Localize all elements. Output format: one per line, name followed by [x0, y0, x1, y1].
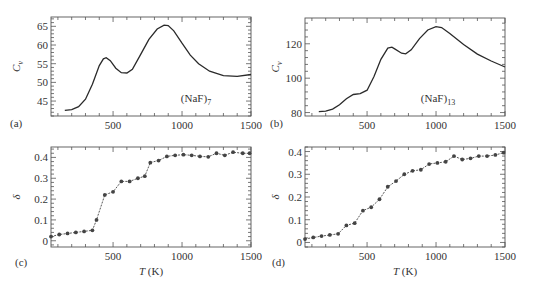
data-point	[128, 179, 132, 183]
chart-panel-a: 500100015004550556065Cv(NaF)7(a)	[10, 17, 263, 131]
data-point	[215, 151, 219, 155]
x-tick-label: 500	[105, 119, 122, 131]
x-axis-label: T (K)	[393, 265, 417, 278]
data-point	[90, 228, 94, 232]
data-point	[95, 218, 99, 222]
data-point	[143, 174, 147, 178]
data-point	[386, 185, 390, 189]
data-point	[173, 153, 177, 157]
data-point	[311, 236, 315, 240]
y-tick-label: 0.2	[34, 193, 48, 205]
y-axis-label: δ	[10, 194, 22, 200]
data-point	[49, 235, 53, 239]
data-point	[444, 160, 448, 164]
y-tick-label: 120	[286, 38, 303, 50]
x-tick-label: 1000	[425, 119, 448, 131]
data-point	[157, 159, 161, 163]
plot-frame	[51, 17, 251, 116]
x-tick-label: 1500	[494, 250, 517, 262]
delta-line	[305, 153, 504, 239]
y-axis-label: Cv	[10, 61, 25, 72]
data-point	[427, 162, 431, 166]
delta-line	[51, 152, 250, 236]
y-axis-label: δ	[269, 194, 281, 200]
y-tick-label: 60	[37, 39, 49, 51]
cluster-annotation: (NaF)7	[181, 92, 211, 107]
data-point	[411, 169, 415, 173]
x-tick-label: 1500	[494, 119, 517, 131]
y-tick-label: 0	[43, 235, 49, 247]
data-point	[198, 154, 202, 158]
cv-curve	[65, 25, 251, 110]
data-point	[469, 156, 473, 160]
data-point	[378, 197, 382, 201]
y-tick-label: 0.3	[288, 168, 302, 180]
data-point	[452, 154, 456, 158]
cluster-annotation: (NaF)13	[421, 92, 455, 107]
y-tick-label: 0.2	[288, 191, 302, 203]
data-point	[394, 179, 398, 183]
data-point	[248, 151, 252, 155]
y-tick-label: 0.1	[34, 214, 48, 226]
data-point	[231, 150, 235, 154]
x-tick-label: 500	[359, 250, 376, 262]
y-tick-label: 100	[286, 72, 303, 84]
y-tick-label: 80	[291, 107, 303, 119]
data-point	[66, 232, 70, 236]
data-point	[369, 205, 373, 209]
plot-frame	[305, 18, 505, 116]
data-point	[419, 168, 423, 172]
x-axis-label: T (K)	[139, 265, 163, 278]
y-axis-label: Cv	[269, 61, 284, 72]
cv-curve	[319, 27, 505, 112]
figure: 500100015004550556065Cv(NaF)7(a)50010001…	[0, 0, 538, 284]
data-point	[165, 154, 169, 158]
data-point	[502, 151, 506, 155]
x-tick-label: 500	[359, 119, 376, 131]
data-point	[223, 153, 227, 157]
data-point	[57, 233, 61, 237]
data-point	[485, 154, 489, 158]
data-point	[103, 193, 107, 197]
chart-panel-d: 5001000150000.10.20.30.4δT (K)(d)	[269, 146, 517, 278]
data-point	[361, 209, 365, 213]
x-tick-label: 1000	[425, 250, 448, 262]
plot-frame	[305, 147, 505, 247]
data-point	[241, 151, 245, 155]
y-tick-label: 0.1	[288, 214, 302, 226]
data-point	[303, 237, 307, 241]
data-point	[182, 153, 186, 157]
data-point	[344, 224, 348, 228]
data-point	[111, 190, 115, 194]
y-tick-label: 0.4	[288, 146, 302, 158]
data-point	[190, 153, 194, 157]
y-tick-label: 65	[37, 20, 49, 32]
data-point	[148, 161, 152, 165]
data-point	[353, 221, 357, 225]
y-tick-label: 0.3	[34, 172, 48, 184]
data-point	[119, 179, 123, 183]
y-tick-label: 50	[37, 76, 49, 88]
data-point	[82, 229, 86, 233]
data-point	[74, 231, 78, 235]
y-tick-label: 0	[297, 236, 303, 248]
data-point	[136, 176, 140, 180]
y-tick-label: 55	[37, 58, 49, 70]
panel-label: (b)	[270, 117, 283, 130]
data-point	[320, 234, 324, 238]
chart-panel-c: 5001000150000.10.20.30.4δT (K)(c)	[10, 147, 263, 278]
x-tick-label: 1000	[171, 119, 194, 131]
data-point	[477, 154, 481, 158]
chart-panel-b: 5001000150080100120Cv(NaF)13(b)	[269, 18, 517, 131]
x-tick-label: 500	[105, 250, 122, 262]
y-tick-label: 45	[37, 95, 49, 107]
y-tick-label: 0.4	[34, 151, 48, 163]
data-point	[206, 155, 210, 159]
x-tick-label: 1500	[240, 119, 263, 131]
x-tick-label: 1000	[171, 250, 194, 262]
data-point	[336, 232, 340, 236]
data-point	[460, 158, 464, 162]
panel-label: (a)	[10, 117, 23, 130]
data-point	[493, 153, 497, 157]
panel-label: (d)	[272, 256, 285, 269]
